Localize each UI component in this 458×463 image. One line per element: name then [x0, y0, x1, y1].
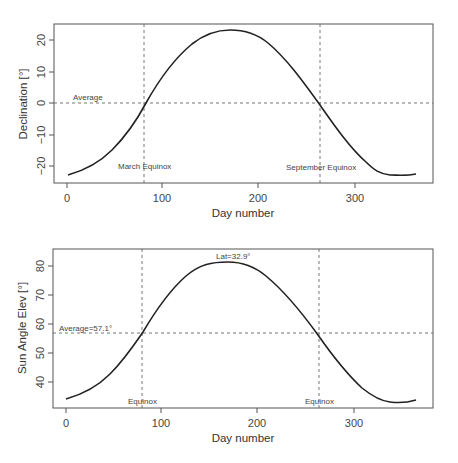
sun-elevation-chart: 80 70 60 50 40 0 100 200 300 Day number … [16, 249, 433, 444]
x-axis [67, 183, 355, 188]
y-tick-label: 70 [34, 289, 46, 301]
september-equinox-annotation: September Equinox [286, 163, 356, 172]
y-tick-label: 80 [34, 260, 46, 272]
x-axis [66, 408, 354, 413]
x-tick-label: 0 [64, 192, 70, 204]
x-tick-label: 200 [249, 192, 267, 204]
y-axis-label: Declination [°] [17, 68, 29, 139]
y-tick-label: 40 [34, 376, 46, 388]
y-axis [49, 40, 54, 166]
y-tick-label: −10 [35, 126, 47, 145]
x-axis-label: Day number [212, 432, 275, 444]
y-axis [48, 266, 53, 382]
y-axis-label: Sun Angle Elev [°] [16, 282, 28, 374]
x-tick-label: 0 [63, 417, 69, 429]
y-tick-label: 50 [34, 347, 46, 359]
x-tick-label: 200 [248, 417, 266, 429]
march-equinox-annotation: March Equinox [118, 162, 171, 171]
y-tick-label: −20 [35, 157, 47, 176]
y-tick-label: 20 [35, 34, 47, 46]
x-tick-label: 300 [345, 417, 363, 429]
sun-elevation-curve [66, 262, 416, 403]
x-tick-label: 100 [153, 192, 171, 204]
figure: 20 10 0 −10 −20 0 100 200 300 Day number… [0, 0, 458, 463]
latitude-annotation: Lat=32.9° [216, 252, 251, 261]
equinox-annotation-2: Equinox [305, 397, 334, 406]
average-annotation: Average [73, 93, 103, 102]
plot-frame [54, 24, 433, 183]
declination-chart: 20 10 0 −10 −20 0 100 200 300 Day number… [17, 24, 433, 219]
average-annotation: Average=57.1° [59, 324, 112, 333]
y-tick-label: 0 [35, 100, 47, 106]
y-tick-label: 60 [34, 318, 46, 330]
x-tick-label: 100 [152, 417, 170, 429]
equinox-annotation-1: Equinox [128, 397, 157, 406]
x-tick-label: 300 [346, 192, 364, 204]
y-tick-label: 10 [35, 66, 47, 78]
x-axis-label: Day number [212, 207, 275, 219]
